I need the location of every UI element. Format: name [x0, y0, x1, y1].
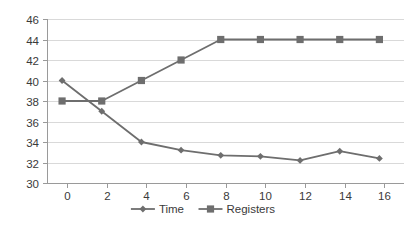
data-point-square-marker	[336, 36, 343, 43]
data-point-square-marker	[177, 56, 184, 63]
x-axis-tick-label: 10	[259, 190, 272, 202]
y-axis-tick-label: 34	[26, 137, 39, 149]
legend-label: Registers	[227, 203, 276, 215]
y-axis-tick-label: 42	[26, 55, 39, 67]
x-axis-tick-label: 2	[104, 190, 110, 202]
x-axis-tick-label: 6	[183, 190, 189, 202]
y-axis-tick-label: 40	[26, 76, 39, 88]
x-axis-tick-label: 14	[339, 190, 352, 202]
data-point-square-marker	[296, 36, 303, 43]
x-axis-tick-label: 8	[223, 190, 229, 202]
y-axis-tick-label: 30	[26, 178, 39, 190]
legend-label: Time	[159, 203, 184, 215]
data-point-square-marker	[58, 97, 65, 104]
y-axis-tick-label: 44	[26, 35, 39, 47]
y-axis-tick-label: 32	[26, 158, 39, 170]
y-axis-tick-label: 38	[26, 96, 39, 108]
chart-container: 303234363840424446 0246810121416 TimeReg…	[0, 0, 417, 232]
y-axis-tick-label: 36	[26, 117, 39, 129]
x-axis-tick-label: 12	[299, 190, 312, 202]
data-point-square-marker	[217, 36, 224, 43]
x-axis-tick-label: 0	[64, 190, 70, 202]
data-point-square-marker	[376, 36, 383, 43]
x-axis-tick-label: 4	[143, 190, 150, 202]
line-chart: 303234363840424446 0246810121416 TimeReg…	[0, 0, 417, 232]
data-point-square-marker	[207, 205, 214, 212]
x-axis-tick-label: 16	[378, 190, 391, 202]
data-point-square-marker	[98, 97, 105, 104]
data-point-square-marker	[138, 77, 145, 84]
y-axis-tick-label: 46	[26, 14, 39, 26]
chart-background	[0, 0, 417, 232]
data-point-square-marker	[257, 36, 264, 43]
